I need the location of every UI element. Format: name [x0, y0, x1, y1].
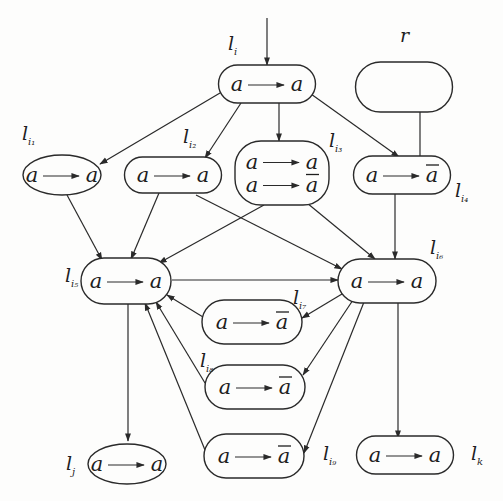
node-r: r [356, 24, 453, 112]
diagram-canvas: aaliraali₁aali₂aaaali₃aali₄aali₅aali₆aal… [0, 0, 503, 501]
node-label-lj: lj [66, 452, 75, 477]
node-lk: aalk [357, 436, 484, 474]
node-label-li9: li₉ [323, 442, 336, 467]
rule-rhs: a [429, 443, 442, 467]
node-label-li1: li₁ [22, 122, 35, 147]
rule-lhs: a [216, 310, 229, 334]
node-li6: aali₆ [338, 236, 443, 303]
node-label-subscript: i [234, 46, 237, 57]
node-li8: aali₈ [200, 349, 305, 409]
rule-rhs: a [197, 163, 210, 187]
rule-lhs: a [219, 375, 232, 399]
edge-li7-li5 [167, 295, 203, 317]
rule-lhs: a [218, 444, 231, 468]
rule-lhs: a [231, 72, 244, 96]
node-li4: aali₄ [354, 156, 469, 204]
node-label-subscript: i₉ [329, 456, 336, 467]
node-label-li4: li₄ [455, 179, 468, 204]
rule-rhs: a [306, 150, 319, 174]
node-label-li6: li₆ [430, 236, 443, 261]
node-label-subscript: i₇ [299, 300, 306, 311]
rule-rhs: a [86, 163, 99, 187]
edge-li2-li6 [196, 195, 342, 269]
edge-li3-li5 [159, 205, 264, 263]
rule-lhs: a [26, 163, 39, 187]
edge-li-li1 [100, 93, 220, 164]
node-li9: aali₉ [204, 434, 336, 478]
rule-lhs: a [137, 163, 150, 187]
node-label-subscript: i₅ [71, 278, 78, 289]
rule-lhs: a [91, 452, 104, 476]
edge-li6-li7 [302, 294, 342, 318]
rule-rhs: a [151, 452, 164, 476]
edge-li6-li9 [304, 302, 364, 453]
node-label-subscript: i₈ [206, 363, 213, 374]
rule-rhs-negated: a [426, 163, 439, 187]
state-graph: aaliraali₁aali₂aaaali₃aali₄aali₅aali₆aal… [0, 0, 503, 501]
edge-li2-li5 [131, 193, 159, 259]
node-lj: aalj [66, 444, 166, 484]
node-label-subscript: i₄ [461, 193, 468, 204]
node-label-li3: li₃ [329, 129, 342, 154]
rule-lhs: a [369, 443, 382, 467]
node-label-r: r [400, 24, 411, 46]
edge-li3-li6 [307, 203, 375, 259]
node-shape-r [356, 62, 453, 112]
rule-rhs-negated: a [276, 310, 289, 334]
rule-rhs: a [291, 72, 304, 96]
edge-li6-li8 [303, 300, 353, 375]
nodes-layer: aaliraali₁aali₂aaaali₃aali₄aali₅aali₆aal… [22, 24, 483, 484]
node-li5: aali₅ [65, 258, 171, 304]
node-li7: aali₇ [202, 286, 306, 344]
node-label-li2: li₂ [183, 125, 196, 150]
rule-rhs-negated: a [278, 444, 291, 468]
node-label-main: r [400, 24, 411, 46]
rule-rhs-negated: a [279, 375, 292, 399]
edge-li1-li5 [67, 195, 102, 260]
node-label-li5: li₅ [65, 264, 78, 289]
node-label-li: li [228, 32, 237, 57]
node-label-lk: lk [471, 442, 483, 467]
rule-lhs: a [246, 150, 259, 174]
node-li3: aaaali₃ [235, 129, 342, 205]
rule-rhs-negated: a [306, 173, 319, 197]
rule-lhs: a [246, 173, 259, 197]
node-label-subscript: i₆ [436, 250, 443, 261]
rule-rhs: a [411, 269, 424, 293]
node-li2: aali₂ [125, 125, 222, 193]
edge-li-li2 [205, 103, 241, 158]
rule-rhs: a [150, 269, 163, 293]
node-label-subscript: i₃ [335, 143, 342, 154]
rule-lhs: a [351, 269, 364, 293]
node-label-li7: li₇ [293, 286, 306, 311]
node-label-subscript: k [477, 456, 483, 467]
node-li1: aali₁ [22, 122, 101, 195]
node-label-subscript: i₁ [28, 136, 35, 147]
edge-li9-li5 [145, 303, 205, 450]
rule-lhs: a [366, 163, 379, 187]
node-label-subscript: i₂ [189, 139, 196, 150]
rule-lhs: a [90, 269, 103, 293]
node-label-li8: li₈ [200, 349, 213, 374]
